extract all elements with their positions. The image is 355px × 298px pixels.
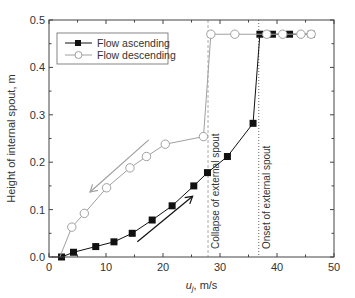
chart: Collapse of external spoutOnset of exter… (0, 0, 355, 298)
x-tick-label: 0 (46, 261, 52, 273)
circle-marker-icon (80, 209, 88, 217)
y-tick-label: 0.2 (30, 156, 45, 168)
circle-marker-icon (207, 30, 215, 38)
square-marker-icon (149, 217, 156, 224)
circle-marker-icon (263, 30, 271, 38)
y-tick-label: 0.0 (30, 251, 45, 263)
circle-marker-icon (68, 223, 76, 231)
series-line (60, 34, 311, 257)
x-axis-label-unit: , m/s (194, 279, 218, 291)
y-tick-label: 0.4 (30, 61, 45, 73)
x-tick-label: 10 (100, 261, 112, 273)
annotation-label: Collapse of external spout (210, 133, 221, 249)
legend-label: Flow ascending (97, 37, 170, 49)
circle-marker-icon (279, 30, 287, 38)
square-marker-icon (204, 169, 211, 176)
square-marker-icon (224, 153, 231, 160)
square-marker-icon (92, 243, 99, 250)
y-axis-label: Height of internal spout, m (5, 74, 17, 202)
x-tick-label: 20 (157, 261, 169, 273)
x-axis-label: uj, m/s (186, 279, 218, 293)
square-marker-icon (129, 230, 136, 237)
descending-arrow-icon (90, 140, 149, 192)
circle-marker-icon (126, 164, 134, 172)
x-tick-label: 30 (214, 261, 226, 273)
square-marker-icon (250, 120, 257, 127)
square-marker-icon (70, 249, 77, 256)
circle-marker-icon (307, 30, 315, 38)
legend: Flow ascendingFlow descending (57, 33, 176, 64)
legend-label: Flow descending (97, 49, 176, 61)
circle-marker-icon (231, 30, 239, 38)
circle-marker-icon (142, 152, 150, 160)
square-marker-icon (110, 238, 117, 245)
circle-marker-icon (102, 184, 110, 192)
square-marker-icon (190, 182, 197, 189)
x-tick-label: 50 (328, 261, 340, 273)
series-line (52, 34, 311, 257)
circle-marker-icon (297, 30, 305, 38)
ascending-arrow-icon (137, 196, 192, 242)
square-marker-icon (169, 202, 176, 209)
y-tick-label: 0.5 (30, 14, 45, 26)
annotation-label: Onset of external spout (261, 145, 272, 249)
legend-circle-icon (75, 52, 82, 59)
circle-marker-icon (199, 132, 207, 140)
x-tick-label: 40 (271, 261, 283, 273)
circle-marker-icon (161, 140, 169, 148)
y-tick-label: 0.1 (30, 204, 45, 216)
y-tick-label: 0.3 (30, 109, 45, 121)
legend-square-icon (75, 40, 81, 46)
